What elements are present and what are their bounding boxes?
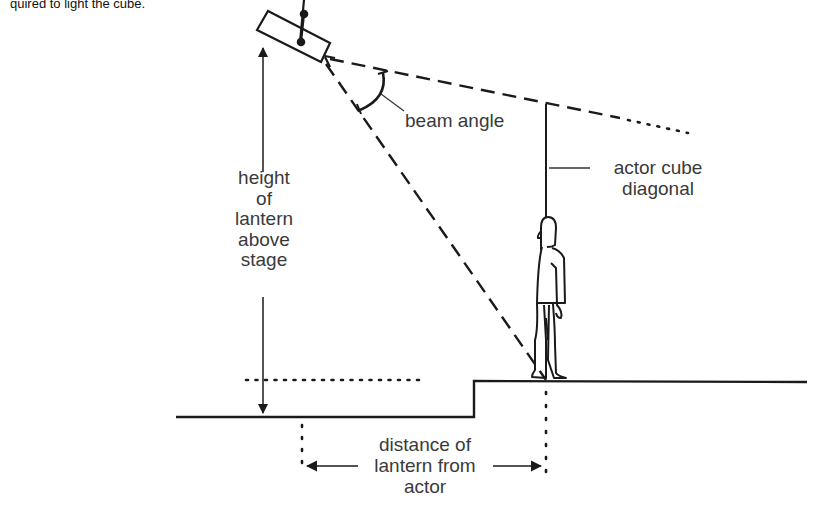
actor-figure-icon xyxy=(532,217,566,378)
height-label-line1: height xyxy=(218,168,310,189)
actor-cube-label-line2: diagonal xyxy=(596,178,720,199)
height-label: height of lantern above stage xyxy=(218,168,310,271)
height-label-line4: above xyxy=(218,230,310,251)
stage-floor xyxy=(176,381,807,417)
actor-cube-diagonal-label: actor cube diagonal xyxy=(596,157,720,199)
stage-lantern-icon xyxy=(257,0,335,67)
actor-cube-label-line1: actor cube xyxy=(596,157,720,178)
beam-angle-label: beam angle xyxy=(405,110,504,131)
distance-label-line2: lantern from xyxy=(355,455,495,476)
beam-angle-arc xyxy=(360,73,384,110)
beam-upper-dotted xyxy=(628,120,688,133)
caption-text: quired to light the cube. xyxy=(10,0,145,11)
height-label-line3: lantern xyxy=(218,209,310,230)
height-label-line2: of xyxy=(218,189,310,210)
diagram: quired to light the cube. beam angle act… xyxy=(0,0,827,521)
beam-angle-leader xyxy=(381,94,404,111)
distance-label-line3: actor xyxy=(355,476,495,497)
distance-label: distance of lantern from actor xyxy=(355,434,495,497)
distance-label-line1: distance of xyxy=(355,434,495,455)
height-label-line5: stage xyxy=(218,250,310,271)
